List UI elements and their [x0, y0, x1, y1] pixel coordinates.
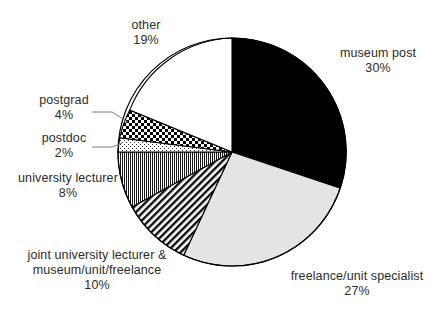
- slice-label-university-lecturer: university lecturer 8%: [4, 171, 132, 201]
- slice-label-joint-lecturer-museum-value: 10%: [6, 278, 188, 293]
- slice-label-freelance-unit-specialist-value: 27%: [288, 284, 426, 299]
- slice-label-museum-post: museum post 30%: [330, 46, 426, 76]
- slice-label-other-value: 19%: [103, 33, 189, 48]
- slice-label-museum-post-name: museum post: [330, 46, 426, 61]
- slice-label-freelance-unit-specialist-name: freelance/unit specialist: [288, 269, 426, 284]
- slice-label-postdoc-value: 2%: [28, 146, 100, 161]
- slice-label-university-lecturer-name: university lecturer: [4, 171, 132, 186]
- slice-label-postdoc-name: postdoc: [28, 131, 100, 146]
- slice-label-other: other 19%: [103, 18, 189, 48]
- slice-label-university-lecturer-value: 8%: [4, 186, 132, 201]
- slice-label-freelance-unit-specialist: freelance/unit specialist 27%: [288, 269, 426, 299]
- slice-label-postgrad-name: postgrad: [28, 93, 100, 108]
- slice-label-joint-lecturer-museum-line2: museum/unit/freelance: [6, 263, 188, 278]
- pie-chart-figure: other 19% museum post 30% freelance/unit…: [0, 0, 428, 310]
- slice-label-joint-lecturer-museum-line1: joint university lecturer &: [6, 248, 188, 263]
- slice-label-postdoc: postdoc 2%: [28, 131, 100, 161]
- slice-label-museum-post-value: 30%: [330, 61, 426, 76]
- slice-label-joint-lecturer-museum: joint university lecturer & museum/unit/…: [6, 248, 188, 293]
- slice-label-postgrad: postgrad 4%: [28, 93, 100, 123]
- slice-label-postgrad-value: 4%: [28, 108, 100, 123]
- pie-slices-group: [118, 38, 346, 266]
- slice-label-other-name: other: [103, 18, 189, 33]
